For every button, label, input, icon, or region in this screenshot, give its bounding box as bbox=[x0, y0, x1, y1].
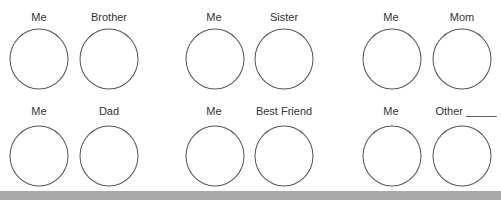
label-me: Me bbox=[31, 11, 46, 23]
circle-me bbox=[186, 126, 245, 187]
circle-brother bbox=[80, 29, 139, 90]
label-me: Me bbox=[383, 105, 398, 117]
label-mom: Mom bbox=[450, 11, 474, 23]
label-other: Other _____ bbox=[435, 105, 496, 117]
label-dad: Dad bbox=[99, 105, 119, 117]
circle-sister bbox=[255, 29, 314, 90]
circle-other bbox=[433, 126, 492, 187]
circle-me bbox=[10, 29, 69, 90]
circle-dad bbox=[80, 126, 139, 187]
label-brother: Brother bbox=[91, 11, 127, 23]
label-sister: Sister bbox=[270, 11, 298, 23]
label-me: Me bbox=[206, 11, 221, 23]
circle-me bbox=[186, 29, 245, 90]
label-me: Me bbox=[383, 11, 398, 23]
label-me: Me bbox=[31, 105, 46, 117]
circle-me bbox=[363, 126, 422, 187]
circle-me bbox=[363, 29, 422, 90]
circle-best-friend bbox=[255, 126, 314, 187]
circle-mom bbox=[433, 29, 492, 90]
bottom-gray-band bbox=[0, 191, 501, 200]
circle-me bbox=[10, 126, 69, 187]
label-me: Me bbox=[206, 105, 221, 117]
label-best-friend: Best Friend bbox=[256, 105, 312, 117]
